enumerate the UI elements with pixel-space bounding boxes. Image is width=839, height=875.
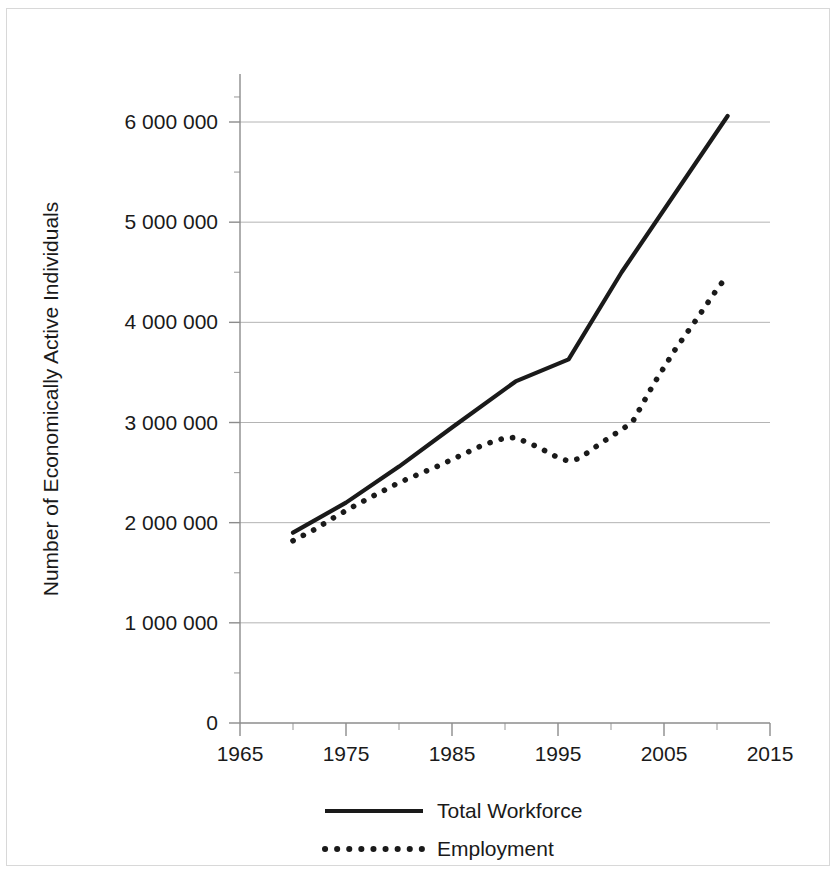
legend-label: Total Workforce [437,799,583,822]
line-chart: 01 000 0002 000 0003 000 0004 000 0005 0… [0,0,839,875]
x-axis-tick-label: 1965 [217,742,264,765]
x-axis-tick-label: 1975 [323,742,370,765]
chart-legend: Total WorkforceEmployment [325,799,583,860]
y-axis-tick-label: 2 000 000 [125,511,218,534]
series-group [293,116,728,541]
y-axis-tick-label: 6 000 000 [125,110,218,133]
y-axis-tick-labels: 01 000 0002 000 0003 000 0004 000 0005 0… [125,110,218,734]
legend-label: Employment [437,837,554,860]
gridlines-group [240,122,770,623]
y-axis-tick-label: 5 000 000 [125,210,218,233]
series-line-employment [293,275,728,540]
x-axis-tick-label: 2005 [641,742,688,765]
y-axis-tick-label: 3 000 000 [125,411,218,434]
y-axis-tick-label: 4 000 000 [125,310,218,333]
series-line-total-workforce [293,116,728,533]
chart-figure: 01 000 0002 000 0003 000 0004 000 0005 0… [0,0,839,875]
major-ticks-group [229,122,770,736]
x-axis-tick-label: 1985 [429,742,476,765]
x-axis-tick-label: 2015 [747,742,794,765]
y-axis-tick-label: 1 000 000 [125,611,218,634]
minor-ticks-group [234,97,717,730]
x-axis-tick-labels: 196519751985199520052015 [217,742,794,765]
x-axis-tick-label: 1995 [535,742,582,765]
y-axis-title: Number of Economically Active Individual… [39,202,62,597]
y-axis-tick-label: 0 [206,711,218,734]
